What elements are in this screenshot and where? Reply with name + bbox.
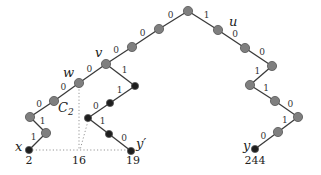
label-c2-sub: 2 <box>67 107 74 117</box>
label-c2: C2 <box>58 100 74 117</box>
internal-node <box>74 78 83 87</box>
edge-bit-label: 1 <box>263 83 269 93</box>
leaf-node <box>106 99 113 106</box>
internal-node <box>25 112 34 121</box>
edge-bit-label: 0 <box>168 10 174 20</box>
label-y: y <box>242 138 251 153</box>
internal-node <box>154 24 163 33</box>
edge-bit-label: 0 <box>60 82 66 92</box>
edge-bit-label: 0 <box>140 28 146 38</box>
leaf-node <box>25 146 32 153</box>
internal-node <box>41 128 50 137</box>
leaf-values: 21619244 <box>26 154 266 167</box>
label-w: w <box>63 65 74 80</box>
tree-edge <box>106 64 135 86</box>
label-y-prime: y′ <box>135 136 146 151</box>
internal-node <box>270 96 279 105</box>
internal-node <box>240 43 249 52</box>
dotted-guide-line <box>80 121 88 150</box>
edge-bit-label: 1 <box>204 10 210 20</box>
internal-node <box>183 6 192 15</box>
trie-canvas: 000000111101010011010 v w u C2 x y y′ 21… <box>0 0 321 175</box>
leaf-node <box>131 82 138 89</box>
edge-bit-label: 0 <box>36 99 42 109</box>
label-v: v <box>95 45 103 60</box>
edge-bit-label: 1 <box>117 85 123 95</box>
internal-node <box>267 61 276 70</box>
edge-bit-label: 0 <box>287 99 293 109</box>
edge-bit-label: 1 <box>282 115 288 125</box>
edge-bit-label: 1 <box>31 132 37 142</box>
tree-edges <box>29 11 298 151</box>
internal-node <box>273 127 282 136</box>
internal-node <box>245 80 254 89</box>
edge-bit-label: 0 <box>113 45 119 55</box>
edge-bit-label: 0 <box>259 47 265 57</box>
leaf-node <box>84 114 91 121</box>
internal-node <box>213 25 222 34</box>
label-x: x <box>15 139 23 154</box>
trie-diagram: 000000111101010011010 v w u C2 x y y′ 21… <box>0 0 321 175</box>
edge-bit-label: 1 <box>255 66 261 76</box>
edge-bit-label: 1 <box>40 116 46 126</box>
internal-node <box>101 59 110 68</box>
edge-bit-label: 0 <box>232 29 238 39</box>
tree-edge <box>110 86 135 103</box>
leaf-value-label: 16 <box>72 154 86 167</box>
internal-node <box>293 112 302 121</box>
internal-node <box>127 42 136 51</box>
edge-bit-label: 1 <box>122 65 128 75</box>
label-c2-main: C <box>58 100 68 115</box>
leaf-value-label: 2 <box>26 154 33 167</box>
leaf-value-label: 244 <box>245 154 266 167</box>
leaf-node <box>251 145 258 152</box>
tree-edge <box>109 134 131 151</box>
label-u: u <box>229 14 237 29</box>
leaf-node <box>105 130 112 137</box>
edge-bit-label: 0 <box>87 64 93 74</box>
leaf-value-label: 19 <box>126 154 140 167</box>
edge-bit-label: 1 <box>100 116 106 126</box>
edge-bit-label: 0 <box>121 133 127 143</box>
edge-bit-label: 0 <box>93 101 99 111</box>
edge-bit-label: 0 <box>260 131 266 141</box>
